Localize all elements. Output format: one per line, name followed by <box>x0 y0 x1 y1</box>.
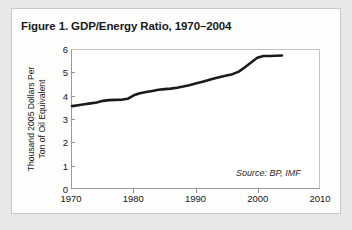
x-tick-mark <box>258 189 259 193</box>
x-tick-label: 2000 <box>247 193 268 204</box>
source-annotation: Source: BP, IMF <box>236 168 301 178</box>
y-tick-mark <box>71 142 75 143</box>
y-tick-label: 5 <box>42 67 68 78</box>
x-tick-mark <box>196 189 197 193</box>
figure-container: Figure 1. GDP/Energy Ratio, 1970–2004 Th… <box>0 0 352 230</box>
y-tick-mark <box>71 166 75 167</box>
y-tick-label: 2 <box>42 137 68 148</box>
y-tick-label: 4 <box>42 90 68 101</box>
page-title: Figure 1. GDP/Energy Ratio, 1970–2004 <box>21 20 231 32</box>
y-tick-mark <box>71 96 75 97</box>
x-tick-label: 1990 <box>185 193 206 204</box>
x-tick-label: 2010 <box>309 193 330 204</box>
y-tick-label: 6 <box>42 44 68 55</box>
x-axis-ticks: 19701980199020002010 <box>0 193 352 207</box>
x-tick-mark <box>133 189 134 193</box>
y-tick-mark <box>71 119 75 120</box>
y-axis-ticks: 0123456 <box>36 49 68 189</box>
y-tick-label: 1 <box>42 160 68 171</box>
y-tick-mark <box>71 72 75 73</box>
data-series-line <box>72 56 282 107</box>
x-tick-label: 1980 <box>123 193 144 204</box>
x-tick-label: 1970 <box>60 193 81 204</box>
y-tick-label: 3 <box>42 114 68 125</box>
